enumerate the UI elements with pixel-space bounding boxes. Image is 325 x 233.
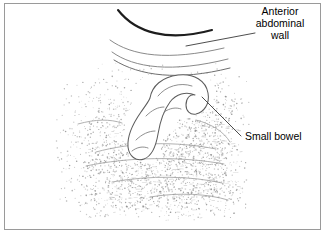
anterior-abdominal-wall-line-2: abdominal [256, 17, 304, 29]
figure-container: Anterior abdominal wall Small bowel [0, 0, 325, 233]
label-small-bowel: Small bowel [245, 130, 302, 142]
small-bowel-label: Small bowel [245, 130, 302, 142]
illustration-canvas: Anterior abdominal wall Small bowel [0, 0, 325, 233]
anterior-abdominal-wall-line-1: Anterior [262, 5, 299, 17]
anterior-abdominal-wall-line-3: wall [270, 29, 289, 41]
